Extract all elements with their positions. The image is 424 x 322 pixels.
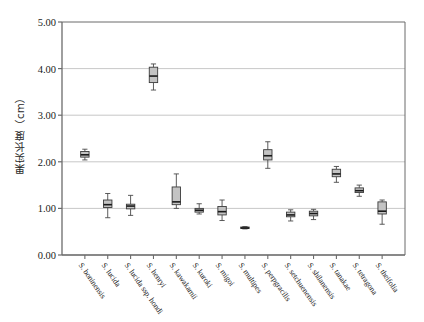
- box: [378, 202, 386, 214]
- y-axis-title: 果实长度（cm）: [14, 92, 30, 174]
- box: [218, 207, 226, 215]
- y-tick-label: 4.00: [38, 63, 56, 74]
- figure-background: [0, 0, 424, 322]
- y-tick-label: 0.00: [38, 250, 56, 261]
- y-tick-label: 5.00: [38, 17, 56, 28]
- y-tick-label: 1.00: [38, 203, 56, 214]
- box: [332, 169, 340, 176]
- box: [149, 67, 157, 82]
- box: [264, 150, 272, 160]
- box-plot-figure: [0, 0, 424, 322]
- y-tick-label: 2.00: [38, 156, 56, 167]
- y-tick-label: 3.00: [38, 110, 56, 121]
- box: [104, 200, 112, 207]
- box-plot-item: [241, 227, 249, 229]
